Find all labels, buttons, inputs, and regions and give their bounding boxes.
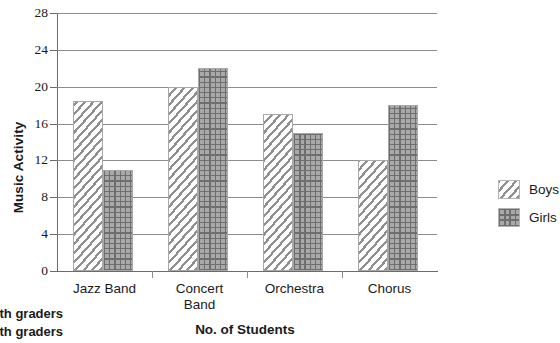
bar-boys-orchestra [263,114,293,271]
x-category-label: Jazz Band [57,281,152,297]
x-category-label: ConcertBand [152,281,247,313]
y-tick-mark [50,234,57,235]
y-tick-label: 0 [8,263,48,279]
y-tick-label: 28 [8,5,48,21]
bar-boys-concert-band [168,87,198,271]
x-category-label: Chorus [342,281,437,297]
bar-girls-chorus [388,105,418,271]
gridline [57,13,437,14]
legend-item-girls: Girls [498,203,559,231]
gridline [57,124,437,125]
x-tick-mark [342,271,343,278]
y-tick-label: 12 [8,152,48,168]
x-tick-mark [247,271,248,278]
bar-boys-jazz-band [73,101,103,271]
caption-line-1: Sixth graders [0,306,63,321]
legend-label-boys: Boys [529,182,559,197]
y-tick-mark [50,271,57,272]
x-label-line: Band [152,297,247,313]
bar-girls-orchestra [293,133,323,271]
y-tick-label: 24 [8,42,48,58]
y-tick-label: 16 [8,116,48,132]
plot-area [57,13,437,271]
x-category-label: Orchestra [247,281,342,297]
x-label-line: Chorus [342,281,437,297]
legend-label-girls: Girls [529,210,557,225]
y-tick-mark [50,87,57,88]
y-tick-mark [50,124,57,125]
y-tick-mark [50,160,57,161]
x-label-line: Jazz Band [57,281,152,297]
gridline [57,50,437,51]
x-label-line: Orchestra [247,281,342,297]
y-tick-mark [50,50,57,51]
y-tick-mark [50,13,57,14]
legend-swatch-boys-icon [498,180,520,199]
bar-girls-jazz-band [103,170,133,271]
y-tick-mark [50,197,57,198]
gridline [57,87,437,88]
legend-item-boys: Boys [498,175,559,203]
y-tick-label: 4 [8,226,48,242]
y-tick-label: 8 [8,189,48,205]
bar-boys-chorus [358,160,388,271]
y-tick-label: 20 [8,79,48,95]
legend-swatch-girls-icon [498,208,520,227]
x-axis-title: No. of Students [130,322,360,337]
bar-girls-concert-band [198,68,228,271]
chart-figure: Music Activity 0481216202428 Jazz BandCo… [0,0,560,343]
legend: Boys Girls [498,175,559,231]
x-label-line: Concert [152,281,247,297]
x-tick-mark [152,271,153,278]
caption-line-2: Sixth graders [0,324,63,339]
